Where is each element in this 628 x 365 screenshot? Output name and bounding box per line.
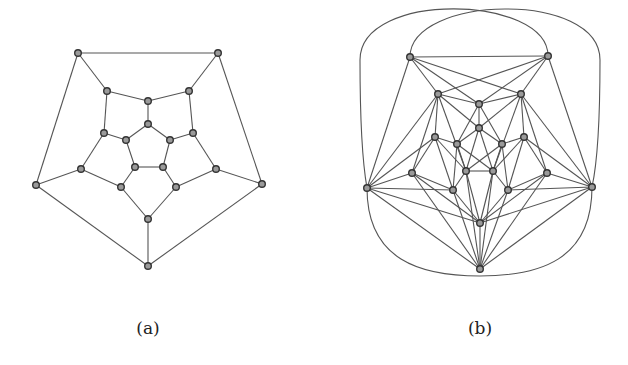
graph-node — [75, 50, 82, 57]
graph-node — [167, 137, 174, 144]
graph-edge — [36, 169, 81, 185]
graph-edge — [367, 137, 435, 188]
graph-edge — [367, 188, 480, 223]
graph-edge — [410, 56, 548, 57]
graph-node — [407, 54, 414, 61]
graph-node — [463, 168, 470, 175]
graph-edge — [480, 187, 592, 269]
graph-node — [364, 185, 371, 192]
graph-node — [409, 170, 416, 177]
graph-node — [454, 141, 461, 148]
graph-edge — [367, 173, 412, 188]
graph-edge — [121, 187, 148, 219]
graph-node — [145, 98, 152, 105]
graph-edge — [547, 173, 592, 187]
graph-edge — [480, 173, 547, 223]
graph-edge — [410, 57, 521, 94]
graph-node — [477, 220, 484, 227]
graph-edge — [189, 53, 218, 91]
graph-node — [33, 182, 40, 189]
graph-node — [476, 125, 483, 132]
graph-node — [544, 170, 551, 177]
graph-node — [477, 266, 484, 273]
figure-canvas — [0, 0, 628, 365]
graph-edge — [524, 137, 592, 187]
graph-edge — [367, 94, 438, 188]
graph-node — [78, 166, 85, 173]
graph-edge — [78, 53, 107, 91]
graph-edge — [480, 187, 592, 223]
graph-edge — [479, 128, 502, 144]
graph-node — [132, 164, 139, 171]
graph-edge — [36, 53, 78, 185]
graph-b-edges — [367, 56, 592, 269]
graph-node — [145, 216, 152, 223]
graph-edge — [438, 56, 548, 94]
graph-node — [160, 164, 167, 171]
graph-edge — [367, 57, 410, 188]
graph-edge — [480, 190, 508, 269]
graph-edge — [163, 140, 170, 167]
graph-edge — [216, 169, 262, 184]
graph-edge — [126, 140, 135, 167]
graph-node — [215, 50, 222, 57]
graph-edge — [435, 137, 453, 190]
graph-node — [259, 181, 266, 188]
graph-edge — [457, 128, 479, 144]
graph-edge — [508, 137, 524, 190]
graph-edge — [148, 91, 189, 101]
graph-edge — [453, 190, 480, 269]
graph-node — [190, 130, 197, 137]
graph-edge — [81, 169, 121, 187]
graph-edge — [104, 91, 107, 133]
graph-edge — [521, 56, 548, 94]
graph-edge — [410, 57, 438, 94]
graph-edge — [193, 133, 216, 169]
graph-node — [145, 263, 152, 270]
graph-a-edges — [36, 53, 262, 266]
graph-edge — [189, 91, 193, 133]
graph-node — [518, 91, 525, 98]
graph-node — [499, 141, 506, 148]
graph-edge — [466, 128, 479, 171]
graph-a-nodes — [33, 50, 266, 270]
graph-edge — [524, 137, 547, 173]
graph-node — [213, 166, 220, 173]
graph-edge — [176, 169, 216, 187]
graph-node — [450, 187, 457, 194]
graph-edge — [479, 128, 493, 171]
graph-node — [123, 137, 130, 144]
graph-edge — [412, 137, 435, 173]
graph-edge — [521, 94, 592, 187]
graph-node — [173, 184, 180, 191]
graph-edge — [410, 57, 479, 104]
graph-node — [145, 121, 152, 128]
caption-a: (a) — [136, 318, 159, 338]
graph-node — [104, 88, 111, 95]
graph-edge — [218, 53, 262, 184]
graph-edge — [508, 187, 592, 190]
graph-node — [521, 134, 528, 141]
graph-edge — [36, 185, 148, 266]
graph-node — [476, 101, 483, 108]
graph-node — [505, 187, 512, 194]
graph-node — [490, 168, 497, 175]
graph-a — [33, 50, 266, 270]
graph-node — [432, 134, 439, 141]
graph-edge — [548, 56, 592, 187]
graph-node — [118, 184, 125, 191]
graph-edge — [367, 188, 453, 190]
graph-edge — [367, 188, 480, 269]
graph-node — [435, 91, 442, 98]
graph-edge — [479, 56, 548, 104]
graph-edge — [148, 124, 170, 140]
caption-b: (b) — [468, 318, 492, 338]
graph-edge — [148, 187, 176, 219]
graph-edge — [148, 184, 262, 266]
graph-edge — [107, 91, 148, 101]
graph-b — [360, 9, 600, 276]
graph-edge — [453, 144, 457, 190]
graph-node — [589, 184, 596, 191]
graph-node — [545, 53, 552, 60]
graph-edge — [126, 124, 148, 140]
